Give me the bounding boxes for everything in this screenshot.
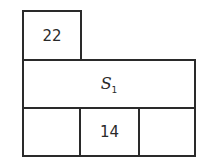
symbol: S bbox=[101, 74, 112, 93]
top-box: 22 bbox=[22, 10, 82, 61]
bottom-box-left bbox=[22, 107, 81, 157]
middle-box-label: S1 bbox=[101, 74, 118, 95]
bottom-box-right bbox=[138, 107, 196, 157]
bottom-box-middle-label: 14 bbox=[100, 123, 119, 141]
top-box-label: 22 bbox=[42, 27, 61, 45]
subscript: 1 bbox=[112, 85, 118, 95]
middle-box: S1 bbox=[22, 59, 196, 109]
bottom-box-middle: 14 bbox=[79, 107, 140, 157]
